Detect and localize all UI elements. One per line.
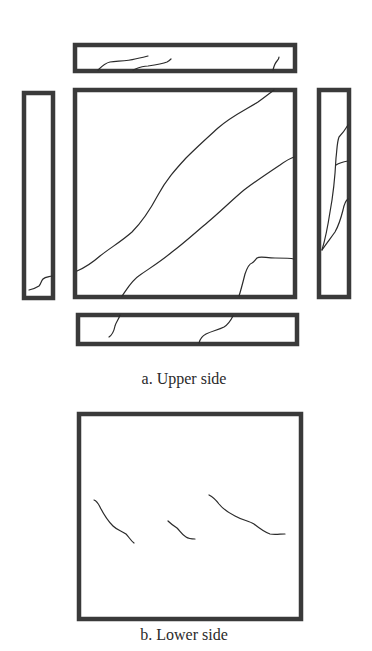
crack-line [109,315,120,337]
crack-line [122,157,294,296]
main-square [75,90,295,297]
crack-line [336,161,348,165]
left-strip [24,93,53,298]
crack-line [29,276,52,290]
lower-side-diagram [79,414,301,619]
crack-line [94,500,134,543]
crack-line [273,57,279,70]
crack-line [209,495,285,534]
caption-lower-side: b. Lower side [0,626,370,644]
crack-line [239,257,294,296]
bottom-strip [78,315,297,344]
crack-line [77,90,274,271]
crack-line [133,59,171,70]
crack-pattern-figure: a. Upper side b. Lower side [0,0,372,651]
crack-line [168,521,195,539]
lower-square [79,414,301,619]
figure-canvas [0,0,372,651]
upper-side-diagram [24,45,349,344]
crack-line [98,56,148,70]
top-strip [75,45,295,71]
crack-line [199,316,233,343]
right-strip [319,90,349,297]
caption-upper-side: a. Upper side [0,370,370,388]
crack-line [322,199,348,250]
